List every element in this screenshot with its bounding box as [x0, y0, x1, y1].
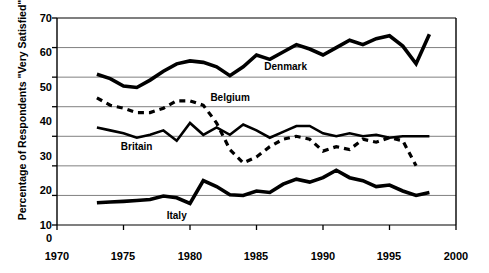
series-label-britain: Britain [120, 141, 154, 152]
x-tick-1975: 1975 [103, 250, 143, 262]
line-chart: Percentage of Respondents "Very Satisfie… [0, 0, 489, 273]
series-label-denmark: Denmark [263, 61, 308, 72]
plot-area [0, 0, 489, 273]
y-tick-10: 10 [26, 219, 52, 231]
x-tick-1970: 1970 [37, 250, 77, 262]
x-tick-1980: 1980 [170, 250, 210, 262]
y-tick-20: 20 [26, 184, 52, 196]
x-tick-2000: 2000 [436, 250, 476, 262]
y-tick-60: 60 [26, 46, 52, 58]
x-tick-1985: 1985 [236, 250, 276, 262]
series-label-italy: Italy [166, 210, 188, 221]
y-tick-30: 30 [26, 150, 52, 162]
series-label-belgium: Belgium [209, 92, 250, 103]
y-tick-70: 70 [26, 12, 52, 24]
y-tick-0: 0 [26, 232, 52, 244]
y-tick-40: 40 [26, 115, 52, 127]
x-tick-1990: 1990 [303, 250, 343, 262]
x-tick-1995: 1995 [369, 250, 409, 262]
y-tick-50: 50 [26, 81, 52, 93]
